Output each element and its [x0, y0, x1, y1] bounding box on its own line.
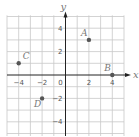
axes: xy	[7, 1, 139, 137]
y-tick-label: 2	[58, 48, 62, 56]
point-label-a: A	[80, 28, 88, 38]
point-label-c: C	[23, 51, 30, 61]
x-tick-label: 0	[58, 79, 62, 87]
point-b	[110, 73, 114, 77]
x-axis-label: x	[133, 69, 139, 80]
point-c	[17, 61, 21, 65]
y-tick-label: 4	[58, 25, 63, 33]
y-axis-arrow-icon	[64, 12, 68, 18]
point-a	[87, 38, 91, 42]
x-axis-arrow-icon	[125, 73, 131, 77]
x-tick-label: 2	[87, 79, 91, 87]
point-label-b: B	[103, 63, 111, 73]
y-axis-label: y	[60, 1, 67, 12]
x-tick-label: 4	[110, 79, 115, 87]
y-tick-label: −4	[52, 118, 63, 126]
y-tick-label: −2	[52, 95, 62, 103]
x-tick-label: −2	[37, 79, 47, 87]
x-tick-label: −4	[14, 79, 25, 87]
coordinate-plane: xy −4−202442−2−4 ABCD	[0, 0, 139, 136]
point-label-d: D	[33, 99, 41, 109]
